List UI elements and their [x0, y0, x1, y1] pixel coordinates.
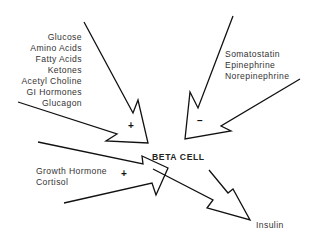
beta-cell-label: BETA CELL	[152, 152, 205, 162]
stimulator-item: Ketones	[21, 65, 82, 76]
stimulator-item: Amino Acids	[21, 43, 82, 54]
stimulator-item: Glucose	[21, 32, 82, 43]
plus-sign-stimulators: +	[128, 120, 134, 131]
inhibitor-item: Epinephrine	[225, 60, 289, 71]
stimulators-list: Glucose Amino Acids Fatty Acids Ketones …	[21, 32, 82, 109]
permissive-list: Growth Hormone Cortisol	[36, 166, 107, 188]
minus-sign-inhibitors: –	[197, 115, 203, 126]
stimulator-item: Acetyl Choline	[21, 76, 82, 87]
permissive-item: Growth Hormone	[36, 166, 107, 177]
stimulator-item: GI Hormones	[21, 87, 82, 98]
insulin-label: Insulin	[256, 220, 284, 231]
permissive-item: Cortisol	[36, 177, 107, 188]
insulin-output-arrow	[153, 169, 250, 220]
inhibitor-item: Norepinephrine	[225, 71, 289, 82]
plus-sign-permissive: +	[121, 168, 127, 179]
stimulator-item: Fatty Acids	[21, 54, 82, 65]
stimulator-item: Glucagon	[21, 98, 82, 109]
inhibitor-item: Somatostatin	[225, 49, 289, 60]
inhibitors-list: Somatostatin Epinephrine Norepinephrine	[225, 49, 289, 82]
